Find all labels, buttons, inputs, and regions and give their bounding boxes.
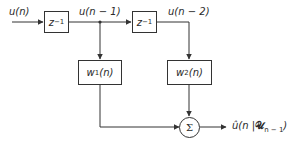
delay-2-exponent: −1	[142, 18, 152, 26]
weight-2-arg: (n)	[189, 67, 203, 78]
output-sub: n − 1	[264, 126, 283, 134]
sigma-symbol: Σ	[186, 122, 193, 133]
branch-point	[98, 20, 101, 23]
w1-to-sum-wire	[100, 84, 179, 127]
output-arg: (n |	[238, 120, 255, 131]
input-label: u(n)	[9, 7, 29, 17]
output-script-u: 𝒰	[255, 120, 264, 131]
weight-1-var: w	[87, 67, 95, 78]
tap2-label: u(n − 2)	[168, 7, 210, 17]
tap1-label: u(n − 1)	[79, 7, 121, 17]
weight-1-arg: (n)	[99, 67, 113, 78]
summation-node: Σ	[179, 117, 200, 138]
weight-block-1: w1(n)	[78, 60, 122, 85]
delay-block-2: z−1	[132, 11, 157, 33]
weight-block-2: w2(n)	[167, 60, 212, 85]
output-close: )	[283, 120, 287, 131]
delay-block-1: z−1	[44, 11, 69, 33]
delay-1-exponent: −1	[54, 18, 64, 26]
output-label: û(n |𝒰n − 1)	[232, 121, 287, 134]
weight-2-var: w	[176, 67, 184, 78]
tap2-wire	[157, 22, 189, 59]
